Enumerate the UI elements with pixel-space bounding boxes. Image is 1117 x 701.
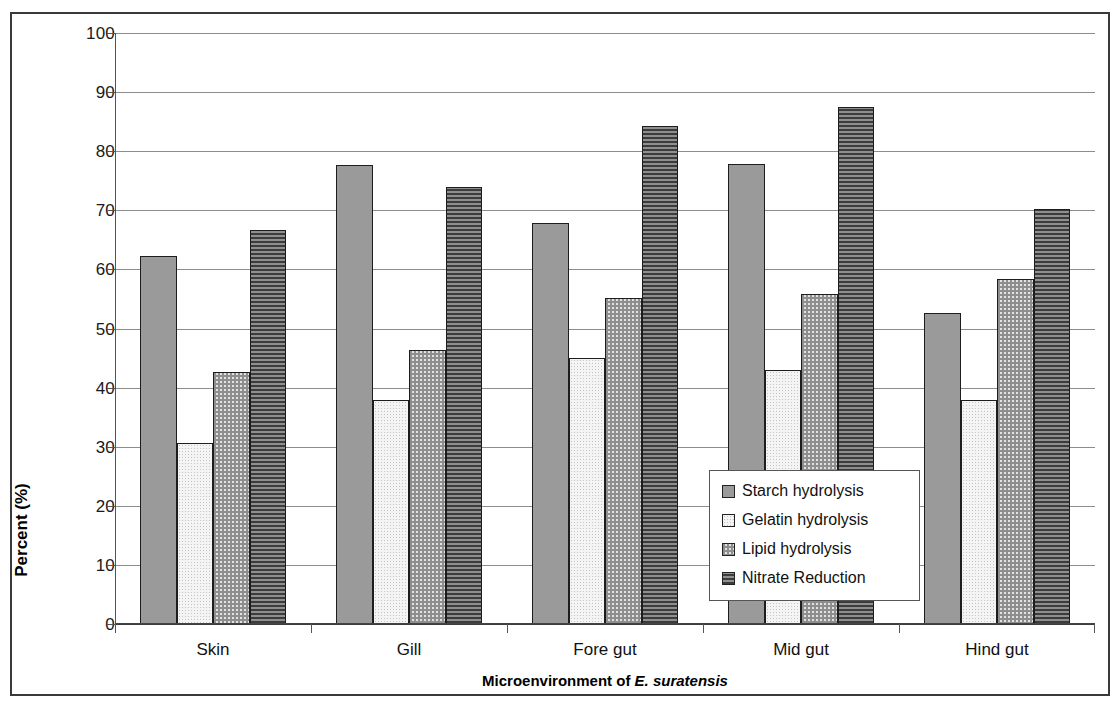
x-axis-tick-label: Gill [311, 640, 507, 660]
legend-item: Lipid hydrolysis [722, 538, 851, 560]
x-axis-tick-mark [899, 624, 900, 633]
legend-item-label: Nitrate Reduction [742, 569, 866, 587]
legend-item-label: Lipid hydrolysis [742, 540, 851, 558]
x-axis-tick-mark [703, 624, 704, 633]
y-axis-title: Percent (%) [12, 430, 32, 630]
x-axis-tick-label: Fore gut [507, 640, 703, 660]
chart-legend: Starch hydrolysisGelatin hydrolysisLipid… [709, 470, 920, 601]
legend-swatch-icon [722, 514, 735, 527]
bar [1034, 209, 1071, 624]
bar [250, 230, 287, 624]
y-axis-tick-label: 10 [71, 556, 115, 576]
legend-swatch-icon [722, 572, 735, 585]
legend-item: Nitrate Reduction [722, 567, 866, 589]
y-axis-tick-mark [107, 92, 115, 93]
y-axis-tick-mark [107, 506, 115, 507]
x-axis-ticks [115, 624, 1095, 634]
x-axis-tick-label: Hind gut [899, 640, 1095, 660]
bar [997, 279, 1034, 624]
y-axis-tick-label: 80 [71, 142, 115, 162]
bar [177, 443, 214, 624]
y-axis-tick-mark [107, 269, 115, 270]
bar [409, 350, 446, 624]
legend-swatch-icon [722, 485, 735, 498]
y-axis-tick-label: 40 [71, 379, 115, 399]
legend-item: Starch hydrolysis [722, 480, 864, 502]
y-axis-tick-mark [107, 210, 115, 211]
y-axis-tick-mark [107, 33, 115, 34]
bar [924, 313, 961, 624]
y-axis-tick-label: 30 [71, 438, 115, 458]
y-axis-tick-mark [107, 329, 115, 330]
y-axis-tick-mark [107, 151, 115, 152]
bar [532, 223, 569, 624]
bar [642, 126, 679, 624]
x-axis-tick-mark [311, 624, 312, 633]
bar [961, 400, 998, 624]
bar [569, 358, 606, 624]
bar-group [924, 33, 1070, 624]
y-axis-ticks: 1009080706050403020100 [63, 33, 115, 624]
bar-group [532, 33, 678, 624]
y-axis-tick-label: 70 [71, 201, 115, 221]
legend-swatch-icon [722, 543, 735, 556]
legend-item: Gelatin hydrolysis [722, 509, 868, 531]
x-axis-tick-mark [115, 624, 116, 633]
x-axis-title: Microenvironment of E. suratensis [115, 672, 1095, 689]
y-axis-tick-mark [107, 565, 115, 566]
x-axis-tick-label: Skin [115, 640, 311, 660]
bar [373, 400, 410, 624]
y-axis-tick-mark [107, 624, 115, 625]
legend-item-label: Starch hydrolysis [742, 482, 864, 500]
y-axis-tick-mark [107, 388, 115, 389]
x-axis-tick-mark [507, 624, 508, 633]
x-axis-tick-labels: SkinGillFore gutMid gutHind gut [115, 640, 1095, 666]
plot-area [115, 33, 1095, 624]
bar-group [140, 33, 286, 624]
y-axis-tick-label: 50 [71, 320, 115, 340]
bar [336, 165, 373, 624]
chart-page: Percent (%) 1009080706050403020100 SkinG… [0, 0, 1117, 701]
x-axis-tick-label: Mid gut [703, 640, 899, 660]
legend-item-label: Gelatin hydrolysis [742, 511, 868, 529]
y-axis-tick-label: 60 [71, 260, 115, 280]
x-axis-title-species: E. suratensis [635, 672, 728, 689]
bar [446, 187, 483, 624]
y-axis-tick-label: 100 [71, 24, 115, 44]
bar-group [336, 33, 482, 624]
y-axis-tick-label: 90 [71, 83, 115, 103]
y-axis-tick-label: 20 [71, 497, 115, 517]
x-axis-tick-mark [1094, 624, 1095, 633]
x-axis-title-text: Microenvironment of [482, 672, 635, 689]
bar [140, 256, 177, 624]
y-axis-tick-label: 0 [71, 615, 115, 635]
y-axis-tick-mark [107, 447, 115, 448]
bar [605, 298, 642, 624]
bar [213, 372, 250, 624]
